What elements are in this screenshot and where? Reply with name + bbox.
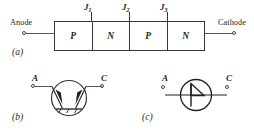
layer-2: N [93, 22, 131, 50]
layer-4-label: N [182, 31, 189, 41]
junction-tick-1 [91, 12, 92, 21]
junction-label-1-index: 1 [88, 6, 91, 13]
caption-b: (b) [12, 113, 23, 123]
layer-1-label: P [70, 31, 76, 41]
junction-label-1: J1 [84, 3, 92, 12]
pnpn-structure: P N P N [54, 21, 205, 51]
junction-label-2-index: 2 [126, 6, 129, 13]
layer-3-label: P [145, 31, 151, 41]
cathode-lead-wire [205, 33, 233, 34]
junction-label-3-index: 3 [164, 6, 167, 13]
anode-lead-wire [26, 33, 54, 34]
layer-2-label: N [107, 31, 114, 41]
cathode-terminal-node [232, 31, 236, 35]
junction-tick-2 [129, 12, 130, 21]
cathode-label: Cathode [218, 19, 246, 27]
symbol-b-envelope-circle [52, 81, 87, 116]
anode-label: Anode [10, 19, 32, 27]
layer-3: P [130, 22, 168, 50]
junction-label-2: J2 [122, 3, 130, 12]
symbol-c-diode-triangle-icon [191, 84, 204, 96]
symbol-c-graphic [158, 79, 234, 125]
junction-tick-3 [167, 12, 168, 21]
layer-4: N [168, 22, 205, 50]
symbol-b-graphic [28, 78, 110, 128]
thyristor-figure: Anode Cathode J1 J2 J3 P N P N (a) A C [0, 0, 254, 140]
caption-c: (c) [142, 113, 153, 123]
caption-a: (a) [12, 48, 23, 58]
junction-label-3: J3 [160, 3, 168, 12]
layer-1: P [55, 22, 93, 50]
